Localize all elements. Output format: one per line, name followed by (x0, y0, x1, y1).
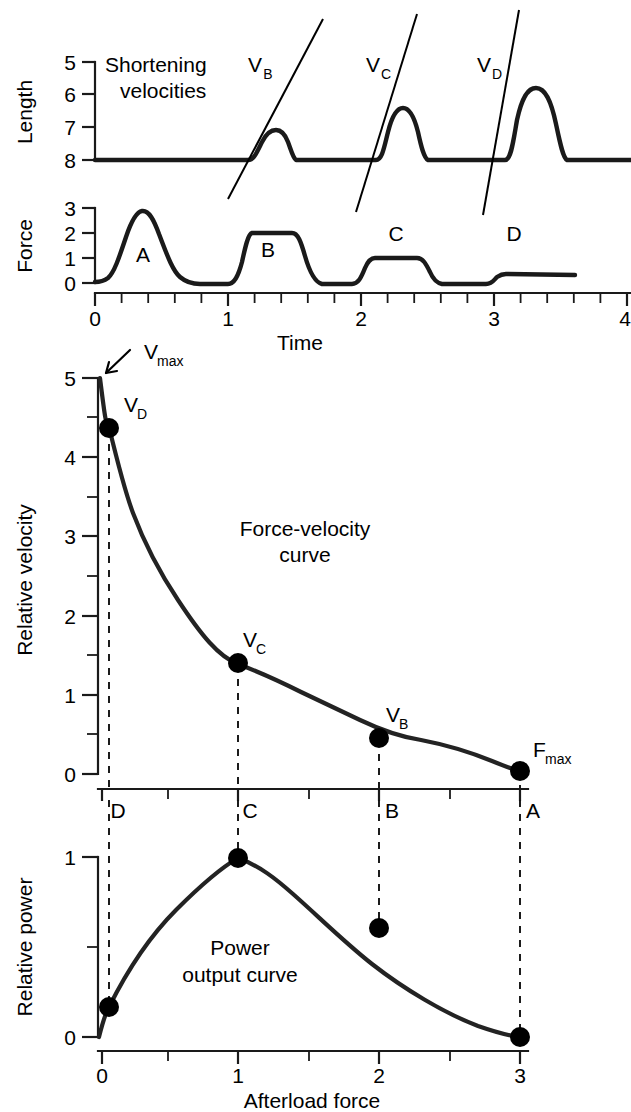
datapoint-VB (369, 728, 389, 748)
velocity-label-B-sub: B (263, 66, 272, 82)
velocity-ticklabel-0: 0 (64, 763, 76, 786)
velocity-tangent-D (483, 10, 519, 215)
length-ticklabel-7: 7 (64, 116, 76, 139)
point-label-VD: V D (124, 393, 147, 422)
velocity-tangent-C (356, 14, 417, 212)
point-label-VD-sub: D (137, 406, 147, 422)
point-label-VC-base: V (243, 628, 257, 651)
datapoint-power-C (228, 848, 248, 868)
datapoint-Fmax (510, 761, 530, 781)
power-annotation-line2: output curve (182, 963, 298, 986)
power-annotation-line1: Power (210, 936, 270, 959)
velocity-label-C-sub: C (381, 66, 391, 82)
fv-annotation-line1: Force-velocity (240, 517, 371, 540)
point-label-VC: V C (243, 628, 266, 657)
velocity-label-D: V D (477, 53, 502, 82)
point-label-VD-base: V (124, 393, 138, 416)
fmax-label-sub: max (545, 751, 571, 767)
velocity-label-B: V B (248, 53, 273, 82)
vmax-label-sub: max (157, 353, 183, 369)
datapoint-power-D (99, 997, 119, 1017)
datapoint-VC (228, 653, 248, 673)
panel-middle-force-velocity: 0 1 2 3 4 5 Relative velocity V max V (13, 340, 571, 822)
fmax-label: F max (533, 738, 571, 767)
afterload-ticklabel-3: 3 (514, 1064, 526, 1087)
category-label-C: C (242, 799, 257, 822)
fv-annotation-line2: curve (279, 543, 330, 566)
contraction-label-B: B (261, 238, 275, 261)
velocity-label-C: V C (366, 53, 391, 82)
datapoint-power-B (369, 918, 389, 938)
velocity-tangent-B (228, 19, 323, 199)
force-ticklabel-3: 3 (64, 197, 76, 220)
datapoint-VD (99, 418, 119, 438)
force-ticklabel-1: 1 (64, 247, 76, 270)
time-ticklabel-2: 2 (355, 307, 367, 330)
velocity-ticklabel-3: 3 (64, 525, 76, 548)
force-ticklabel-0: 0 (64, 272, 76, 295)
vmax-label-base: V (144, 340, 158, 363)
panel-top-length: 5 6 7 8 Length Shortening velocities V B… (13, 10, 631, 215)
datapoint-power-A (510, 1027, 530, 1047)
category-label-A: A (526, 799, 540, 822)
time-ticklabel-3: 3 (488, 307, 500, 330)
afterload-ticklabel-1: 1 (232, 1064, 244, 1087)
vmax-arrow (106, 350, 130, 373)
force-velocity-curve (100, 378, 524, 772)
vmax-label: V max (144, 340, 183, 369)
time-ticklabel-4: 4 (619, 307, 631, 330)
fmax-label-base: F (533, 738, 546, 761)
shortening-annotation-line2: velocities (120, 79, 206, 102)
time-axis-title: Time (277, 331, 323, 354)
point-label-VC-sub: C (256, 641, 266, 657)
power-ticklabel-1: 1 (64, 846, 76, 869)
velocity-ticklabel-1: 1 (64, 684, 76, 707)
afterload-ticklabel-2: 2 (373, 1064, 385, 1087)
panel-bottom-power: 1 0 Relative power Power output curve 0 … (13, 800, 530, 1112)
time-ticklabel-0: 0 (89, 307, 101, 330)
category-label-B: B (385, 799, 399, 822)
velocity-label-C-base: V (366, 53, 380, 76)
length-axis-title: Length (13, 80, 36, 144)
point-label-VB-base: V (386, 703, 400, 726)
velocity-label-D-base: V (477, 53, 491, 76)
length-ticklabel-5: 5 (64, 51, 76, 74)
velocity-ticklabel-2: 2 (64, 605, 76, 628)
shortening-annotation-line1: Shortening (105, 53, 207, 76)
point-label-VB: V B (386, 703, 408, 732)
velocity-ticklabel-4: 4 (64, 446, 76, 469)
velocity-label-D-sub: D (492, 66, 502, 82)
force-axis-title: Force (13, 219, 36, 273)
contraction-label-D: D (506, 222, 521, 245)
force-ticklabel-2: 2 (64, 222, 76, 245)
figure-root: 5 6 7 8 Length Shortening velocities V B… (0, 0, 631, 1112)
point-label-VB-sub: B (399, 716, 408, 732)
panel-top-force: 3 2 1 0 Force A B C D (13, 197, 631, 354)
velocity-ticklabel-5: 5 (64, 367, 76, 390)
length-ticklabel-6: 6 (64, 83, 76, 106)
afterload-ticklabel-0: 0 (96, 1064, 108, 1087)
length-ticklabel-8: 8 (64, 149, 76, 172)
time-ticklabel-1: 1 (222, 307, 234, 330)
contraction-label-A: A (136, 243, 150, 266)
velocity-axis-title: Relative velocity (13, 504, 36, 656)
force-trace (95, 211, 575, 284)
velocity-label-B-base: V (248, 53, 262, 76)
power-axis-title: Relative power (13, 878, 36, 1017)
category-label-D: D (110, 799, 125, 822)
afterload-axis-title: Afterload force (244, 1089, 381, 1112)
power-ticklabel-0: 0 (64, 1026, 76, 1049)
power-output-curve (99, 858, 519, 1037)
contraction-label-C: C (388, 222, 403, 245)
